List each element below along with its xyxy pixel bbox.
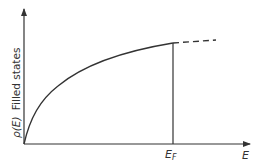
dos-curve-filled [24,43,173,144]
density-of-states-diagram: ρ(E) Filled states EF E [0,0,263,165]
fermi-energy-label: EF [165,148,177,162]
y-axis-label: ρ(E) Filled states [10,48,22,138]
x-axis-label: E [242,149,249,162]
dos-curve-unfilled-dashed [173,40,216,43]
